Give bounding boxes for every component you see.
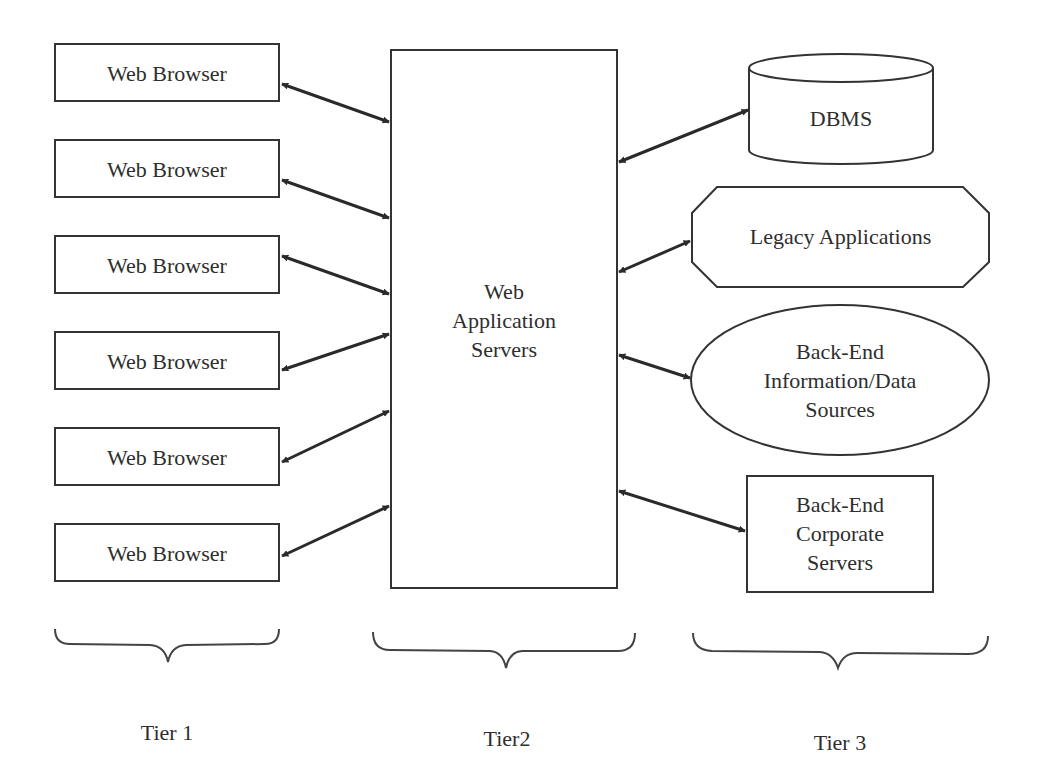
bidirectional-arrow-icon <box>282 256 389 294</box>
bidirectional-arrow-icon <box>282 411 389 462</box>
server-label-line-2: Application <box>391 306 617 335</box>
dbms-label: DBMS <box>749 104 933 133</box>
web-application-servers-label: Web Application Servers <box>391 277 617 364</box>
web-browser-label: Web Browser <box>56 45 278 101</box>
info-sources-line-1: Back-End <box>691 337 989 366</box>
bidirectional-arrow-icon <box>282 334 389 370</box>
bidirectional-arrow-icon <box>619 355 690 378</box>
back-end-corporate-servers-label: Back-End Corporate Servers <box>747 490 933 577</box>
tier3-brace <box>693 633 988 668</box>
web-browser-label: Web Browser <box>56 141 278 197</box>
bidirectional-arrow-icon <box>619 241 690 272</box>
corporate-line-1: Back-End <box>747 490 933 519</box>
tier1-label: Tier 1 <box>107 718 227 747</box>
web-browser-label: Web Browser <box>56 333 278 389</box>
legacy-applications-label: Legacy Applications <box>692 222 989 251</box>
server-label-line-3: Servers <box>391 335 617 364</box>
tier1-brace <box>55 629 279 662</box>
bidirectional-arrow-icon <box>619 491 745 531</box>
corporate-line-2: Corporate <box>747 519 933 548</box>
bidirectional-arrow-icon <box>282 84 389 122</box>
web-browser-label: Web Browser <box>56 525 278 581</box>
web-browser-label: Web Browser <box>56 237 278 293</box>
web-browser-label: Web Browser <box>56 429 278 485</box>
tier3-label: Tier 3 <box>780 728 900 757</box>
tier2-label: Tier2 <box>447 724 567 753</box>
info-sources-line-3: Sources <box>691 395 989 424</box>
bidirectional-arrow-icon <box>619 110 748 162</box>
corporate-line-3: Servers <box>747 548 933 577</box>
tier2-brace <box>373 632 635 668</box>
info-sources-line-2: Information/Data <box>691 366 989 395</box>
bidirectional-arrow-icon <box>282 506 389 556</box>
server-label-line-1: Web <box>391 277 617 306</box>
bidirectional-arrow-icon <box>282 180 389 218</box>
back-end-info-sources-label: Back-End Information/Data Sources <box>691 337 989 424</box>
